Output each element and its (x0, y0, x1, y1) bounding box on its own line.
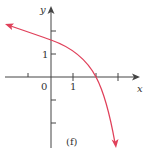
graph: y x 0 1 1 (f) (0, 0, 145, 153)
y-axis-label: y (39, 4, 46, 15)
y-tick-label-1: 1 (42, 49, 48, 60)
panel-label: (f) (66, 136, 78, 147)
x-axis-label: x (137, 83, 143, 94)
x-tick-label-1: 1 (70, 81, 76, 92)
origin-label: 0 (41, 81, 47, 92)
function-curve (8, 25, 115, 143)
